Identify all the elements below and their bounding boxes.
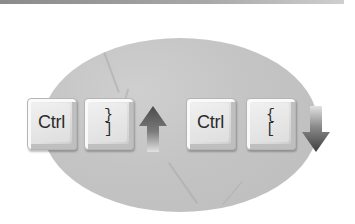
ctrl-key: Ctrl (186, 98, 236, 150)
right-bracket-key: } ] (84, 98, 134, 150)
ctrl-key: Ctrl (27, 98, 77, 150)
top-rule (0, 0, 344, 4)
arrow-up-icon (138, 104, 168, 154)
key-glyph-bottom: ] (104, 123, 113, 137)
ctrl-key-label: Ctrl (38, 112, 65, 133)
key-glyph-bottom: [ (266, 123, 275, 137)
left-bracket-key: { [ (246, 98, 296, 150)
arrow-down-icon (301, 104, 331, 154)
ctrl-key-label: Ctrl (197, 112, 224, 133)
